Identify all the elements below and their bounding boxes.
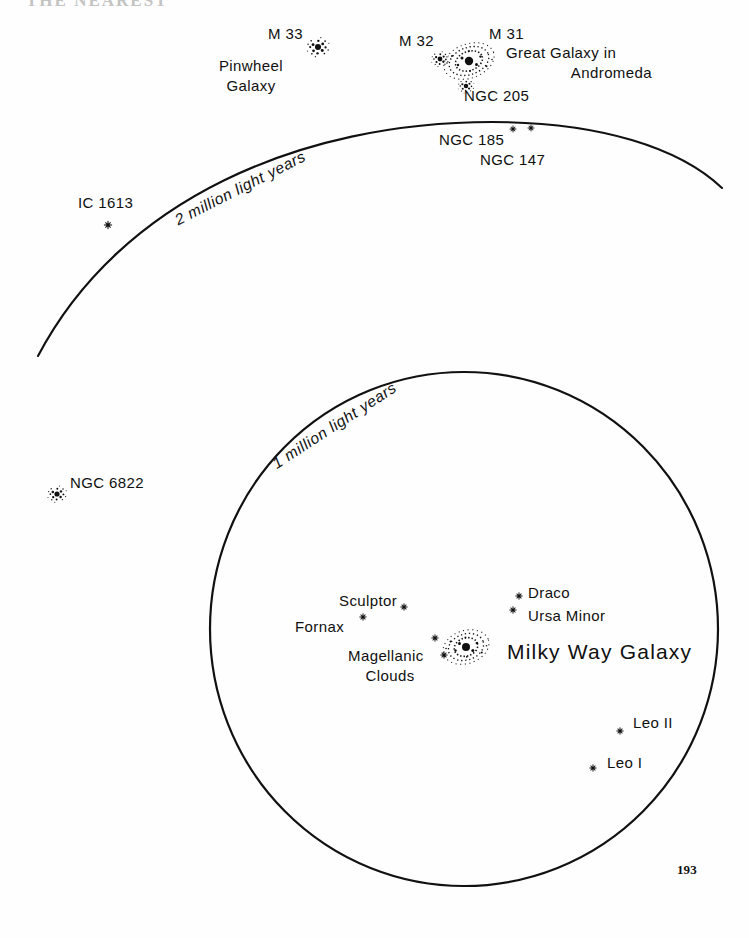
symbol-small-magellanic-cloud	[440, 651, 447, 658]
symbol-ngc-185	[510, 126, 517, 133]
label-ngc-6822: NGC 6822	[70, 475, 144, 492]
symbol-fornax	[359, 613, 366, 620]
label-ngc-185: NGC 185	[439, 132, 504, 149]
symbol-m33	[307, 37, 330, 57]
label-magellanic-clouds-line2: Clouds	[348, 668, 432, 685]
label-fornax: Fornax	[295, 619, 344, 636]
label-m31-sub-andromeda: Andromeda	[506, 65, 652, 82]
symbol-sculptor	[400, 603, 407, 610]
label-m31: M 31	[489, 26, 524, 43]
symbol-large-magellanic-cloud	[431, 634, 438, 641]
label-ngc-205: NGC 205	[464, 88, 529, 105]
symbol-ic-1613	[104, 221, 112, 229]
symbol-ursa-minor	[509, 606, 516, 613]
label-ic-1613: IC 1613	[78, 195, 133, 212]
label-magellanic-clouds-line1: Magellanic	[348, 648, 424, 665]
symbol-milky-way	[439, 624, 494, 670]
label-ngc-147: NGC 147	[480, 152, 545, 169]
label-ursa-minor: Ursa Minor	[528, 608, 605, 625]
label-leo-1: Leo I	[607, 755, 642, 772]
symbol-draco	[515, 592, 522, 599]
label-m33-sub-pinwheel: Pinwheel	[195, 58, 307, 75]
label-m33: M 33	[178, 26, 303, 43]
symbol-ngc-147	[528, 125, 535, 132]
symbol-leo-1	[589, 764, 596, 771]
ring-2-million-light-years	[38, 122, 722, 356]
label-sculptor: Sculptor	[339, 593, 397, 610]
label-leo-2: Leo II	[633, 715, 673, 732]
symbol-ngc-6822	[48, 485, 67, 502]
figure-page: THE NEAREST	[0, 0, 749, 938]
page-number: 193	[677, 862, 697, 878]
label-milky-way-galaxy: Milky Way Galaxy	[507, 640, 692, 664]
symbol-leo-2	[616, 727, 623, 734]
symbol-m32	[431, 51, 449, 67]
label-m32: M 32	[399, 33, 434, 50]
label-draco: Draco	[528, 585, 570, 602]
diagram-canvas	[0, 0, 749, 938]
label-m31-sub-great-galaxy: Great Galaxy in	[506, 45, 616, 62]
label-m33-sub-galaxy: Galaxy	[195, 78, 307, 95]
